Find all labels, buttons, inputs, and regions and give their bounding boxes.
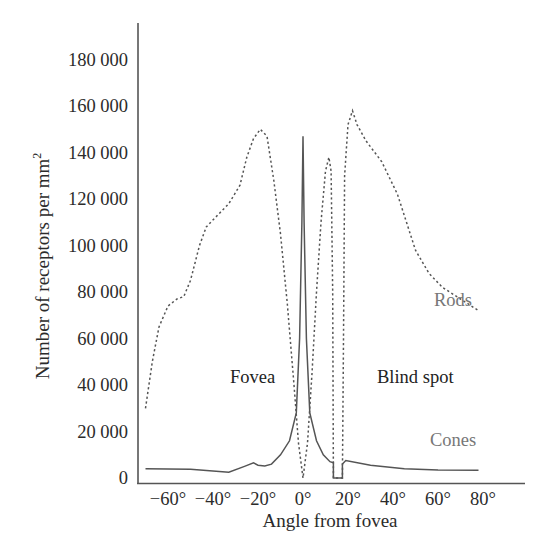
cones-series-line <box>146 136 479 478</box>
x-tick-label: 60° <box>425 489 451 509</box>
y-tick-label: 180 000 <box>68 50 128 70</box>
x-tick-label: 0° <box>295 489 312 509</box>
x-tick-label: −40° <box>195 489 231 509</box>
y-axis-title-superscript: 2 <box>30 153 44 159</box>
y-tick-label: 40 000 <box>77 375 128 395</box>
y-tick-label: 80 000 <box>77 282 128 302</box>
fovea-label: Fovea <box>230 367 275 387</box>
x-tick-labels: −60°−40°−20°0°20°40°60°80° <box>150 489 496 509</box>
y-tick-label: 120 000 <box>68 189 128 209</box>
cones-label: Cones <box>430 430 476 450</box>
x-tick-label: −20° <box>240 489 276 509</box>
y-tick-label: 160 000 <box>68 96 128 116</box>
x-tick-label: 20° <box>335 489 361 509</box>
y-tick-labels: 020 00040 00060 00080 000100 000120 0001… <box>68 50 128 489</box>
y-axis-title-main: Number of receptors per mm <box>32 159 53 380</box>
receptor-density-chart: 020 00040 00060 00080 000100 000120 0001… <box>0 0 545 560</box>
y-tick-label: 100 000 <box>68 236 128 256</box>
y-tick-label: 60 000 <box>77 329 128 349</box>
rods-label: Rods <box>434 290 472 310</box>
x-axis-title: Angle from fovea <box>262 510 398 531</box>
y-tick-label: 20 000 <box>77 422 128 442</box>
y-tick-label: 140 000 <box>68 143 128 163</box>
x-tick-label: 80° <box>470 489 496 509</box>
y-tick-label: 0 <box>119 468 128 488</box>
blind-spot-label: Blind spot <box>377 367 454 387</box>
x-tick-label: −60° <box>150 489 186 509</box>
x-tick-label: 40° <box>380 489 406 509</box>
y-axis-title: Number of receptors per mm2 <box>30 153 53 380</box>
